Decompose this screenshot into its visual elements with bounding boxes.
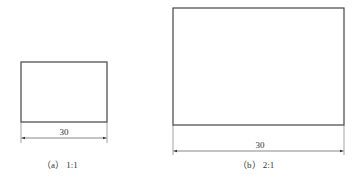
figure-a: 30: [21, 62, 107, 143]
rectangle-1-1: [21, 62, 107, 122]
dimension-label: 30: [256, 140, 266, 150]
figure-b: 30: [173, 8, 344, 155]
rectangle-2-1: [173, 8, 344, 125]
dimension-label: 30: [60, 127, 70, 137]
caption-a: （a） 1:1: [42, 158, 78, 171]
caption-b: （b） 2:1: [238, 158, 274, 171]
